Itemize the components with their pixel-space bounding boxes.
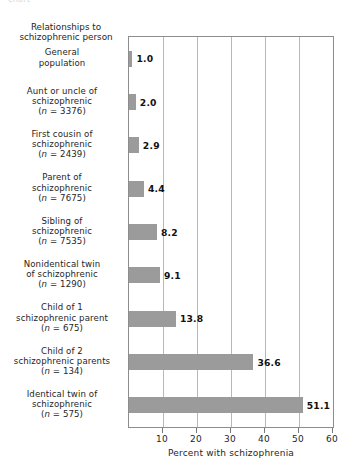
category-label-line: General: [0, 47, 124, 57]
category-label-line: Nonidentical twin: [0, 259, 124, 269]
x-axis-tick-mark: [196, 428, 197, 433]
category-label-line: schizophrenic parent: [0, 313, 124, 323]
category-label-line: Identical twin of: [0, 389, 124, 399]
category-label: Identical twin ofschizophrenic(n = 575): [0, 389, 124, 420]
n-symbol: n: [42, 236, 48, 246]
x-axis-title: Percent with schizophrenia: [128, 448, 334, 458]
bar-row: 1.0: [129, 51, 153, 67]
category-label: Aunt or uncle ofschizophrenic(n = 3376): [0, 86, 124, 117]
n-symbol: n: [44, 323, 50, 333]
n-symbol: n: [42, 193, 48, 203]
category-label-line: of schizophrenic: [0, 269, 124, 279]
bar: [129, 181, 144, 197]
category-sample-size: (n = 7675): [0, 193, 124, 203]
bar-value-label: 2.9: [143, 140, 160, 151]
category-label-line: First cousin of: [0, 129, 124, 139]
category-label-line: schizophrenic parents: [0, 356, 124, 366]
x-axis-tick-label: 40: [258, 434, 270, 444]
bar: [129, 137, 139, 153]
x-axis-tick-mark: [162, 428, 163, 433]
bar: [129, 397, 303, 413]
category-label: Parent ofschizophrenic(n = 7675): [0, 172, 124, 203]
bar-row: 8.2: [129, 224, 178, 240]
bar: [129, 311, 176, 327]
x-axis-tick-mark: [264, 428, 265, 433]
bar: [129, 267, 160, 283]
x-axis-tick-label: 50: [292, 434, 304, 444]
category-label: Child of 1schizophrenic parent(n = 675): [0, 302, 124, 333]
x-axis-tick-mark: [298, 428, 299, 433]
bar-row: 51.1: [129, 397, 330, 413]
category-sample-size: (n = 575): [0, 409, 124, 419]
x-axis-tick-label: 10: [156, 434, 168, 444]
x-axis-tick-label: 60: [326, 434, 338, 444]
category-label-line: Child of 2: [0, 346, 124, 356]
bar: [129, 224, 157, 240]
category-label: Generalpopulation: [0, 47, 124, 67]
y-axis-header-line: Relationships to: [6, 22, 126, 32]
n-symbol: n: [42, 279, 48, 289]
category-sample-size: (n = 1290): [0, 279, 124, 289]
x-axis-tick-mark: [230, 428, 231, 433]
bar-chart-figure: chart Relationships toschizophrenic pers…: [0, 0, 350, 467]
category-sample-size: (n = 3376): [0, 106, 124, 116]
bar-row: 36.6: [129, 354, 281, 370]
bar: [129, 94, 136, 110]
category-label-line: schizophrenic: [0, 226, 124, 236]
n-symbol: n: [44, 409, 50, 419]
x-axis-tick-label: 20: [190, 434, 202, 444]
bar-value-label: 36.6: [257, 357, 280, 368]
n-symbol: n: [42, 106, 48, 116]
bar-value-label: 9.1: [164, 270, 181, 281]
x-axis-tick-mark: [332, 428, 333, 433]
category-label-line: population: [0, 58, 124, 68]
n-symbol: n: [44, 366, 50, 376]
bar-row: 13.8: [129, 311, 203, 327]
category-label-line: Aunt or uncle of: [0, 86, 124, 96]
clipped-top-caption: chart: [8, 0, 30, 4]
bar-series: 1.02.02.94.48.29.113.836.651.1: [129, 37, 333, 427]
bar-value-label: 1.0: [136, 53, 153, 64]
category-label: First cousin ofschizophrenic(n = 2439): [0, 129, 124, 160]
bar-value-label: 4.4: [148, 183, 165, 194]
x-axis-tick-label: 30: [224, 434, 236, 444]
category-label: Nonidentical twinof schizophrenic(n = 12…: [0, 259, 124, 290]
category-label: Sibling ofschizophrenic(n = 7535): [0, 216, 124, 247]
bar-value-label: 51.1: [307, 400, 330, 411]
bar-value-label: 8.2: [161, 227, 178, 238]
bar: [129, 354, 253, 370]
category-label-line: Child of 1: [0, 302, 124, 312]
category-label-line: schizophrenic: [0, 139, 124, 149]
category-label-line: schizophrenic: [0, 399, 124, 409]
bar-row: 9.1: [129, 267, 181, 283]
category-sample-size: (n = 675): [0, 323, 124, 333]
n-symbol: n: [42, 149, 48, 159]
bar-value-label: 13.8: [180, 313, 203, 324]
bar-row: 4.4: [129, 181, 165, 197]
category-label-line: schizophrenic: [0, 183, 124, 193]
category-label-column: GeneralpopulationAunt or uncle ofschizop…: [0, 36, 126, 428]
category-sample-size: (n = 2439): [0, 149, 124, 159]
bar-row: 2.9: [129, 137, 160, 153]
category-sample-size: (n = 134): [0, 366, 124, 376]
category-label-line: Sibling of: [0, 216, 124, 226]
category-label-line: schizophrenic: [0, 96, 124, 106]
bar: [129, 51, 132, 67]
bar-value-label: 2.0: [140, 97, 157, 108]
bar-row: 2.0: [129, 94, 157, 110]
category-label: Child of 2schizophrenic parents(n = 134): [0, 346, 124, 377]
category-sample-size: (n = 7535): [0, 236, 124, 246]
category-label-line: Parent of: [0, 172, 124, 182]
